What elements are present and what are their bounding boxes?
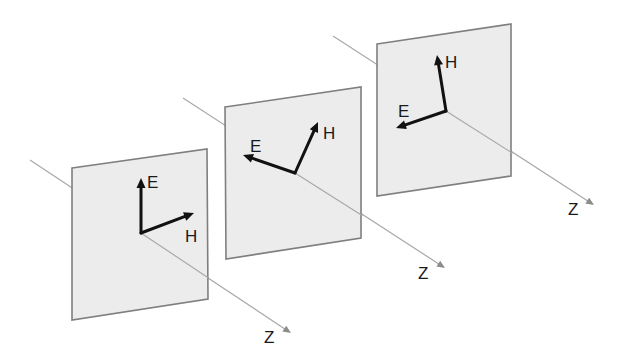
- e-field-label: E: [250, 137, 261, 156]
- e-field-label: E: [398, 102, 409, 121]
- z-arrowhead-icon: [282, 326, 291, 333]
- e-field-label: E: [147, 173, 158, 192]
- z-axis-label: Z: [568, 200, 578, 219]
- h-field-label: H: [323, 124, 335, 143]
- h-field-label: H: [185, 227, 197, 246]
- z-arrowhead-icon: [585, 198, 594, 205]
- z-axis-label: Z: [264, 328, 274, 347]
- wave-plane-group: EHZ: [333, 24, 594, 219]
- z-arrowhead-icon: [436, 261, 445, 268]
- z-axis-label: Z: [418, 264, 428, 283]
- h-field-label: H: [445, 53, 457, 72]
- em-wave-diagram: EHZEHZEHZ: [0, 0, 628, 360]
